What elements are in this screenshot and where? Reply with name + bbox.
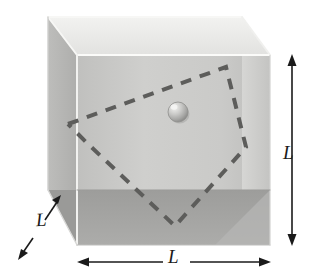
physics-figure-cube-with-ball: L L L <box>0 0 317 275</box>
cube-top-face <box>48 17 270 55</box>
cube-diagram-svg <box>0 0 317 275</box>
width-dimension-label: L <box>168 247 179 266</box>
ball-specular-highlight <box>171 104 178 110</box>
cube-body <box>48 17 270 245</box>
height-dimension-label: L <box>283 143 294 162</box>
depth-dimension-label: L <box>36 210 48 230</box>
